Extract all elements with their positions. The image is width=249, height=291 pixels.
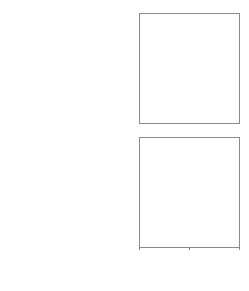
chart-canvas	[0, 0, 249, 291]
top-plot-frame	[140, 14, 240, 124]
bottom-plot-frame	[140, 138, 240, 248]
